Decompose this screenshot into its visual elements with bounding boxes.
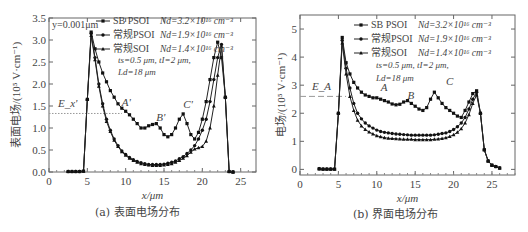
figure: 05101520250.00.51.01.52.02.53.03.5x/μm表面… <box>0 0 528 232</box>
y-tick-label: 1.0 <box>32 122 46 134</box>
legend-param: Nd=3.2×10¹⁶ cm⁻³ <box>159 16 233 26</box>
y-tick-label: 2 <box>292 107 298 119</box>
legend-label: 常规SOI <box>371 46 407 58</box>
legend-label: SB PSOI <box>371 19 407 30</box>
legend-note: ts=0.5 μm, tI=2 μm, <box>118 55 191 65</box>
y-tick-label: 0.5 <box>32 144 46 156</box>
caption-left: (a) 表面电场分布 <box>95 203 180 219</box>
chart-panel-a: 05101520250.00.51.01.52.02.53.03.5x/μm表面… <box>9 12 256 201</box>
x-tick-label: 10 <box>371 178 383 190</box>
legend-note: Ld=18 μm <box>117 67 156 77</box>
x-axis-label: x/μm <box>141 189 163 201</box>
y-axis-label: 电场/(10⁵ V·cm⁻¹) <box>274 53 288 137</box>
x-tick-label: 0 <box>297 178 303 190</box>
y-tick-label: 2.5 <box>32 56 46 68</box>
chart-panel-b: 0510152025012345x/μm电场/(10⁵ V·cm⁻¹)E_AAB… <box>274 15 515 204</box>
y-tick-label: 1.5 <box>32 100 46 112</box>
y-tick-label: 4 <box>292 51 298 63</box>
x-axis-label: x/μm <box>396 192 418 204</box>
legend: SB PSOINd=3.2×10¹⁶ cm⁻³常规PSOINd=1.9×10¹⁶… <box>354 19 491 83</box>
x-tick-label: 20 <box>197 175 209 187</box>
legend-param: Nd=3.2×10¹⁶ cm⁻³ <box>417 20 491 30</box>
y-axis-label: 表面电场/(10⁵ V·cm⁻¹) <box>9 42 23 148</box>
legend-label: 常规PSOI <box>113 28 155 40</box>
y-tick-label: 3 <box>292 79 298 91</box>
x-tick-label: 5 <box>336 178 342 190</box>
x-tick-label: 25 <box>486 178 498 190</box>
x-tick-label: 5 <box>85 175 91 187</box>
legend-param: Nd=1.4×10¹⁶ cm⁻³ <box>159 44 233 54</box>
top-annotation: y=0.001μm <box>52 19 99 30</box>
x-tick-label: 15 <box>159 175 171 187</box>
y-tick-label: 3.0 <box>32 34 46 46</box>
x-tick-label: 0 <box>46 175 52 187</box>
x-tick-label: 20 <box>448 178 460 190</box>
y-tick-label: 0.0 <box>32 166 46 178</box>
reference-line-label: E_A <box>311 80 331 92</box>
x-tick-label: 15 <box>410 178 422 190</box>
legend-note: Ld=18 μm <box>375 73 414 83</box>
caption-right: (b) 界面电场分布 <box>353 205 438 221</box>
legend-label: 常规SOI <box>113 42 149 54</box>
point-label: A' <box>121 96 132 108</box>
y-tick-label: 3.5 <box>32 12 46 24</box>
legend-param: Nd=1.9×10¹⁶ cm⁻³ <box>159 30 233 40</box>
x-tick-label: 25 <box>235 175 247 187</box>
y-tick-label: 2.0 <box>32 78 46 90</box>
y-tick-label: 1 <box>292 135 298 147</box>
point-label: C' <box>183 98 193 110</box>
point-label: B' <box>156 111 166 123</box>
y-tick-label: 0 <box>292 163 298 175</box>
point-label: C <box>446 75 454 87</box>
legend-param: Nd=1.9×10¹⁶ cm⁻³ <box>417 34 491 44</box>
reference-line-label: E_x' <box>57 97 78 109</box>
legend-note: ts=0.5 μm, tI=2 μm, <box>376 60 449 70</box>
x-tick-label: 10 <box>120 175 132 187</box>
legend-label: 常规PSOI <box>371 32 413 44</box>
legend-label: SB PSOI <box>113 15 149 26</box>
legend-param: Nd=1.4×10¹⁶ cm⁻³ <box>417 48 491 58</box>
y-tick-label: 5 <box>292 23 298 35</box>
